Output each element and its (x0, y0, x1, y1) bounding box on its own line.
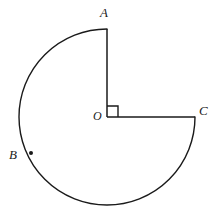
vertex-label-o: O (93, 110, 102, 122)
canvas-background (0, 0, 220, 219)
circle-diagram-svg (0, 0, 220, 219)
vertex-label-c: C (199, 104, 208, 117)
geometry-figure: A B C O (0, 0, 220, 219)
point-b-marker-dot (29, 151, 33, 155)
vertex-label-a: A (100, 6, 108, 19)
vertex-label-b: B (9, 148, 17, 161)
